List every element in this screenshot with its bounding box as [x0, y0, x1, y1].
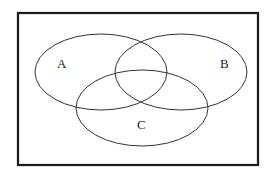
set-b-label: B — [220, 56, 229, 71]
set-a-label: A — [57, 56, 67, 71]
venn-diagram: A B C — [0, 0, 274, 176]
set-c-label: C — [137, 117, 146, 132]
universe-frame — [18, 13, 258, 165]
